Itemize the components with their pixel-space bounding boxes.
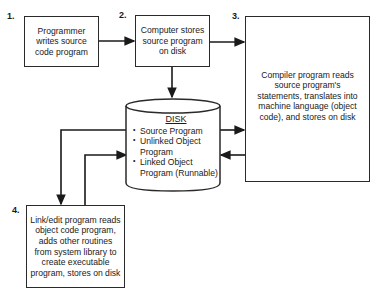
bullet-icon: • [133, 135, 135, 146]
disk-item: • Linked Object Program (Runnable) [132, 157, 220, 178]
step-1-box: Programmer writes source code program [24, 16, 99, 67]
bullet-icon: • [133, 156, 135, 167]
disk-item: • Unlinked Object Program [132, 136, 220, 157]
bullet-icon: • [133, 125, 135, 136]
step-2-box: Computer stores source program on disk [135, 15, 210, 67]
step-3-number: 3. [232, 11, 240, 21]
arrow-disk-to-step4 [61, 130, 127, 204]
disk-item-text: Source Program [140, 126, 203, 136]
step-4-text: Link/edit program reads object code prog… [30, 215, 121, 279]
step-4-box: Link/edit program reads object code prog… [26, 205, 125, 288]
step-2-number: 2. [119, 10, 127, 20]
disk-item-text: Unlinked Object Program [140, 136, 201, 157]
step-2-text: Computer stores source program on disk [139, 25, 206, 57]
disk-contents: DISK • Source Program • Unlinked Object … [132, 114, 220, 179]
disk-item-text: Linked Object Program (Runnable) [140, 157, 218, 178]
disk-title: DISK [132, 114, 220, 125]
step-4-number: 4. [12, 205, 20, 215]
step-3-text: Compiler program reads source program's … [252, 70, 363, 123]
step-1-text: Programmer writes source code program [28, 26, 95, 58]
arrow-step4-to-disk [85, 155, 126, 205]
step-3-box: Compiler program reads source program's … [245, 16, 370, 182]
disk-item: • Source Program [132, 126, 220, 137]
step-1-number: 1. [7, 11, 15, 21]
